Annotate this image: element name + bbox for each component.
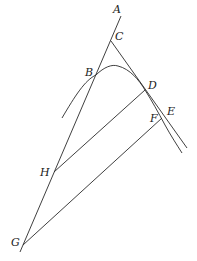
label-a: A (113, 4, 121, 15)
label-e: E (167, 106, 175, 117)
label-c: C (115, 31, 123, 42)
label-f: F (150, 113, 158, 124)
line-ag (20, 16, 121, 252)
line-hd (54, 90, 145, 172)
label-h: H (40, 167, 50, 178)
diagram-svg (0, 0, 197, 261)
tangent-line-ce (111, 41, 187, 148)
label-b: B (85, 67, 93, 78)
label-d: D (148, 80, 157, 91)
label-g: G (11, 237, 20, 248)
parabola-curve (62, 65, 182, 153)
geometry-diagram: A C B D E F H G (0, 0, 197, 261)
